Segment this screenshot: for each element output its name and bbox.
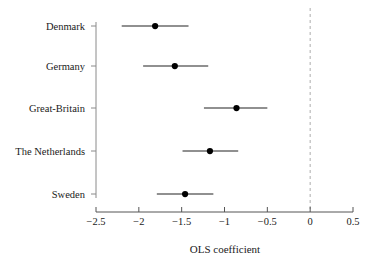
y-axis-ticks (91, 26, 96, 194)
x-axis-tick-labels: −2.5−2−1.5−1−0.500.5 (86, 216, 359, 227)
x-tick-label: −2 (133, 216, 144, 227)
x-tick-label: 0.5 (346, 216, 359, 227)
category-label-the-netherlands: The Netherlands (15, 146, 85, 157)
x-tick-label: −2.5 (86, 216, 105, 227)
category-label-germany: Germany (46, 61, 86, 72)
data-series (122, 23, 268, 197)
x-tick-label: −1 (219, 216, 230, 227)
chart-canvas: −2.5−2−1.5−1−0.500.5 DenmarkGermanyGreat… (0, 0, 374, 262)
x-tick-label: 0 (308, 216, 313, 227)
x-tick-label: −0.5 (258, 216, 277, 227)
category-label-denmark: Denmark (46, 21, 86, 32)
point-estimate-denmark (152, 23, 158, 29)
x-axis-ticks (96, 207, 353, 212)
coefficient-plot: −2.5−2−1.5−1−0.500.5 DenmarkGermanyGreat… (0, 0, 374, 262)
x-tick-label: −1.5 (172, 216, 191, 227)
category-labels: DenmarkGermanyGreat-BritainThe Netherlan… (15, 21, 85, 200)
point-estimate-sweden (182, 191, 188, 197)
x-axis-title: OLS coefficient (190, 243, 260, 255)
category-label-great-britain: Great-Britain (29, 103, 86, 114)
point-estimate-the-netherlands (207, 148, 213, 154)
point-estimate-germany (172, 63, 178, 69)
category-label-sweden: Sweden (52, 189, 86, 200)
point-estimate-great-britain (233, 105, 239, 111)
